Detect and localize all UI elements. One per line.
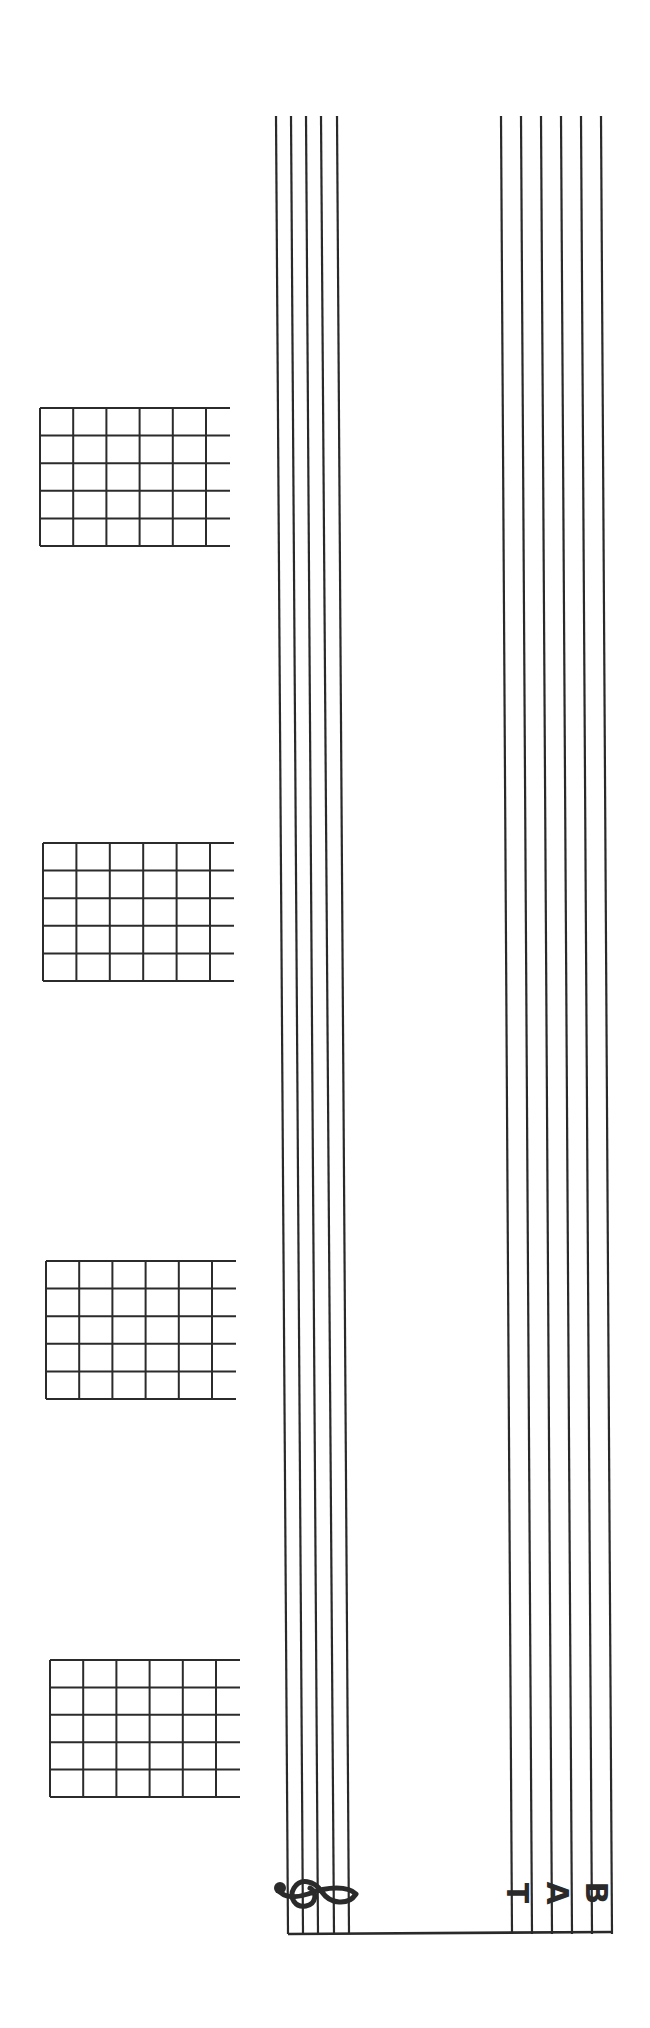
tab-line bbox=[561, 116, 572, 1934]
tab-letter-b: B bbox=[579, 1882, 614, 1905]
tab-line bbox=[501, 116, 512, 1934]
chord-grid-3 bbox=[46, 1261, 236, 1399]
tab-line bbox=[521, 116, 532, 1934]
tab-line bbox=[541, 116, 552, 1934]
chord-grids bbox=[40, 408, 240, 1797]
treble-clef-icon bbox=[274, 1882, 356, 1907]
staff-line bbox=[276, 116, 288, 1934]
chord-grid-4 bbox=[50, 1660, 240, 1797]
tab-letter-t: T bbox=[500, 1883, 535, 1904]
chord-grid-2 bbox=[43, 843, 234, 981]
staff-line bbox=[337, 116, 349, 1934]
staff-line bbox=[291, 116, 303, 1934]
system-bracket-line bbox=[288, 1932, 612, 1934]
staff-line bbox=[321, 116, 334, 1934]
music-staff bbox=[276, 116, 349, 1934]
tab-line bbox=[601, 116, 612, 1934]
chord-grid-1 bbox=[40, 408, 230, 546]
tab-staff bbox=[501, 116, 612, 1934]
staff-line bbox=[306, 116, 318, 1934]
tab-line bbox=[581, 116, 592, 1934]
tab-sheet: TAB bbox=[0, 0, 650, 2028]
tab-label: TAB bbox=[500, 1881, 614, 1905]
tab-letter-a: A bbox=[540, 1881, 575, 1905]
